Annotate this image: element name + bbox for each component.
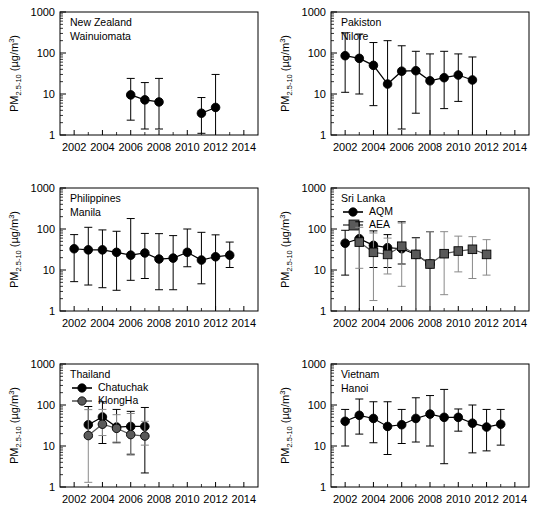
data-point-marker [454,247,463,256]
data-point-marker [397,420,406,429]
x-tick-label: 2014 [503,141,527,153]
chart-panel-vietnam: 11010010002002200420062008201020122014PM… [271,352,542,528]
data-point-marker [211,103,220,112]
x-tick-label: 2004 [90,317,114,329]
legend-label: KlongHa [98,394,138,406]
data-point-marker [412,66,421,75]
y-tick-label: 1 [320,129,326,141]
x-tick-label: 2008 [418,317,442,329]
chart-panel-new-zealand: 11010010002002200420062008201020122014PM… [0,0,271,176]
x-tick-label: 2004 [361,141,385,153]
panel-subtitle: Wainuiomata [70,30,131,42]
data-point-marker [397,67,406,76]
x-tick-label: 2012 [474,493,498,505]
data-point-marker [225,251,234,260]
data-point-marker [482,250,491,259]
data-point-marker [112,424,121,433]
data-point-marker [341,417,350,426]
x-tick-label: 2006 [118,493,142,505]
x-tick-label: 2010 [175,493,199,505]
data-point-marker [440,249,449,258]
data-point-marker [355,54,364,63]
panel-subtitle: Manila [70,206,101,218]
data-point-marker [211,252,220,261]
y-tick-label: 1 [320,305,326,317]
x-tick-label: 2014 [232,317,256,329]
panel-title: Philippines [70,192,121,204]
y-tick-label: 1000 [302,358,326,370]
x-tick-label: 2006 [118,141,142,153]
data-point-marker [369,248,378,257]
data-point-marker [98,420,107,429]
data-point-marker [468,76,477,85]
data-point-marker [468,245,477,254]
svg-text:PM2.5-10 (µg/m3): PM2.5-10 (µg/m3) [7,387,23,464]
x-tick-label: 2008 [147,141,171,153]
data-point-marker [341,51,350,60]
legend-marker-circle [78,397,86,405]
svg-text:PM2.5-10 (µg/m3): PM2.5-10 (µg/m3) [278,387,294,464]
data-point-marker [98,246,107,255]
data-point-marker [383,422,392,431]
data-point-marker [496,420,505,429]
y-tick-label: 10 [43,88,55,100]
panel-title: Thailand [70,368,110,380]
data-point-marker [126,91,135,100]
data-point-marker [369,61,378,70]
y-axis-title: PM2.5-10 (µg/m3) [278,387,294,464]
data-point-marker [426,260,435,269]
y-axis-title: PM2.5-10 (µg/m3) [7,211,23,288]
x-tick-label: 2008 [418,141,442,153]
y-axis-title: PM2.5-10 (µg/m3) [278,211,294,288]
x-tick-label: 2010 [446,317,470,329]
panel-title: Vietnam [341,368,380,380]
y-tick-label: 10 [43,440,55,452]
y-tick-label: 1 [320,481,326,493]
data-point-marker [169,254,178,263]
legend-label: AEA [369,218,390,230]
x-tick-label: 2004 [90,493,114,505]
x-tick-label: 2002 [333,317,357,329]
x-tick-label: 2014 [232,141,256,153]
x-tick-label: 2010 [446,493,470,505]
y-tick-label: 10 [314,440,326,452]
data-point-marker [141,249,150,258]
x-tick-label: 2002 [62,317,86,329]
y-tick-label: 100 [308,223,326,235]
x-tick-label: 2006 [118,317,142,329]
data-point-marker [454,413,463,422]
legend-marker-circle [349,208,357,216]
y-tick-label: 1000 [31,358,55,370]
y-tick-label: 1000 [302,6,326,18]
x-tick-label: 2002 [333,141,357,153]
y-tick-label: 100 [37,399,55,411]
data-point-marker [440,413,449,422]
data-point-marker [482,423,491,432]
y-tick-label: 100 [37,47,55,59]
data-point-marker [70,244,79,253]
y-tick-label: 100 [37,223,55,235]
x-tick-label: 2014 [503,493,527,505]
data-point-marker [383,80,392,89]
panel-title: Sri Lanka [341,192,386,204]
y-axis-title: PM2.5-10 (µg/m3) [7,35,23,112]
x-tick-label: 2004 [90,141,114,153]
data-point-marker [197,109,206,118]
x-tick-label: 2008 [418,493,442,505]
y-tick-label: 1 [49,481,55,493]
data-point-marker [412,250,421,259]
chart-panel-thailand: 11010010002002200420062008201020122014PM… [0,352,271,528]
data-point-marker [369,414,378,423]
x-tick-label: 2010 [175,317,199,329]
data-point-marker [126,251,135,260]
data-point-marker [112,248,121,257]
x-tick-label: 2006 [389,317,413,329]
x-tick-label: 2014 [503,317,527,329]
data-point-marker [84,431,93,440]
chart-panel-philippines: 11010010002002200420062008201020122014PM… [0,176,271,352]
x-tick-label: 2004 [361,317,385,329]
data-point-marker [141,96,150,105]
svg-text:PM2.5-10 (µg/m3): PM2.5-10 (µg/m3) [278,211,294,288]
x-tick-label: 2012 [474,141,498,153]
data-point-marker [126,430,135,439]
